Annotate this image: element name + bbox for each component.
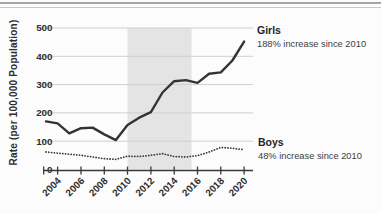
y-tick-label: 100 <box>36 136 53 147</box>
y-tick-label: 400 <box>36 51 53 62</box>
boys-series-label: Boys <box>258 136 362 148</box>
y-tick-label: 300 <box>36 79 53 90</box>
x-tick-label: 2016 <box>180 175 204 199</box>
self-harm-rate-figure: 0100200300400500200420062008201020122014… <box>0 0 381 214</box>
y-axis-title: Rate (per 100,000 Population) <box>8 18 21 168</box>
x-tick-label: 2006 <box>63 175 87 199</box>
x-tick-label: 2012 <box>133 175 157 199</box>
boys-series-note: 48% increase since 2010 <box>258 151 362 161</box>
x-tick-label: 2004 <box>40 175 64 199</box>
y-tick-label: 500 <box>36 22 53 33</box>
x-tick-label: 2008 <box>87 175 111 199</box>
y-tick-label: 200 <box>36 107 53 118</box>
boys-annotation: Boys 48% increase since 2010 <box>258 136 362 161</box>
x-tick-label: 2014 <box>156 175 180 199</box>
x-tick-label: 2010 <box>110 175 134 199</box>
girls-series-note: 188% increase since 2010 <box>257 39 366 49</box>
girls-series-label: Girls <box>257 24 366 36</box>
x-tick-label: 2020 <box>226 175 250 199</box>
y-tick-label: 0 <box>47 164 53 175</box>
x-tick-label: 2018 <box>203 175 227 199</box>
girls-annotation: Girls 188% increase since 2010 <box>257 24 366 49</box>
